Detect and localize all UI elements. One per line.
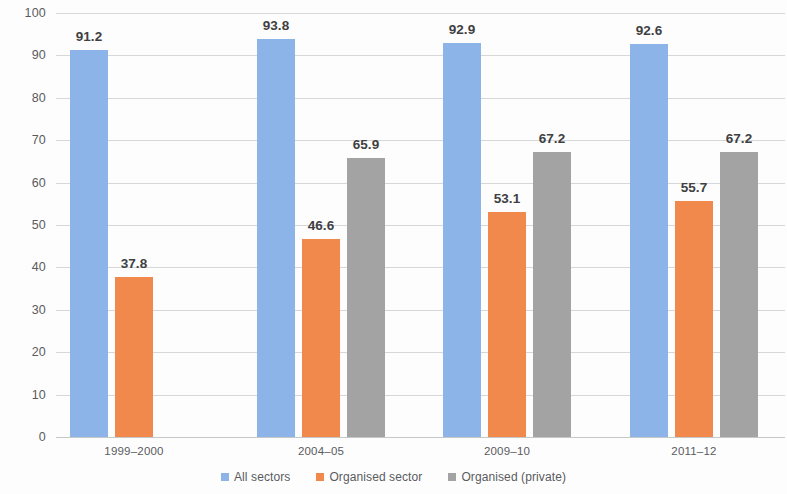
bar-value-label: 92.6	[619, 24, 679, 38]
x-category-label: 2011–12	[634, 446, 754, 458]
legend-label: Organised (private)	[461, 471, 566, 483]
bar-value-label: 93.8	[246, 19, 306, 33]
x-category-label: 1999–2000	[74, 446, 194, 458]
bar[interactable]	[302, 239, 340, 437]
y-tick-label-70: 70	[0, 134, 46, 147]
plot-area: 1009080706050403020100 91.237.893.846.66…	[0, 0, 787, 460]
bar[interactable]	[720, 152, 758, 437]
chart-legend: All sectorsOrganised sectorOrganised (pr…	[0, 471, 787, 483]
legend-swatch-icon	[448, 473, 456, 481]
bar-value-label: 46.6	[291, 219, 351, 233]
bar-chart: 1009080706050403020100 91.237.893.846.66…	[0, 0, 787, 494]
y-tick-label-90: 90	[0, 49, 46, 62]
y-tick-label-40: 40	[0, 261, 46, 274]
bar[interactable]	[533, 152, 571, 437]
bar-value-label: 37.8	[104, 257, 164, 271]
legend-label: All sectors	[234, 471, 290, 483]
bar-value-label: 91.2	[59, 30, 119, 44]
bar[interactable]	[347, 158, 385, 437]
bar[interactable]	[488, 212, 526, 437]
gridline-90	[56, 55, 785, 56]
bar-value-label: 55.7	[664, 181, 724, 195]
bar[interactable]	[443, 43, 481, 437]
bar[interactable]	[70, 50, 108, 437]
x-category-label: 2004–05	[261, 446, 381, 458]
y-tick-label-0: 0	[0, 431, 46, 444]
gridline-80	[56, 98, 785, 99]
bar-value-label: 67.2	[709, 132, 769, 146]
legend-item[interactable]: All sectors	[221, 471, 290, 483]
bar-value-label: 67.2	[522, 132, 582, 146]
legend-label: Organised sector	[329, 471, 422, 483]
bar[interactable]	[675, 201, 713, 437]
y-tick-label-100: 100	[0, 7, 46, 20]
legend-swatch-icon	[221, 473, 229, 481]
legend-item[interactable]: Organised (private)	[448, 471, 566, 483]
bar[interactable]	[630, 44, 668, 437]
gridline-0	[56, 437, 785, 438]
gridline-100	[56, 13, 785, 14]
bar-value-label: 65.9	[336, 138, 396, 152]
gridline-70	[56, 140, 785, 141]
legend-item[interactable]: Organised sector	[316, 471, 422, 483]
y-tick-label-30: 30	[0, 304, 46, 317]
y-tick-label-10: 10	[0, 388, 46, 401]
y-tick-label-20: 20	[0, 346, 46, 359]
bar-value-label: 53.1	[477, 192, 537, 206]
bar[interactable]	[257, 39, 295, 437]
y-tick-label-60: 60	[0, 176, 46, 189]
legend-swatch-icon	[316, 473, 324, 481]
bar-value-label: 92.9	[432, 23, 492, 37]
x-category-label: 2009–10	[447, 446, 567, 458]
y-tick-label-50: 50	[0, 219, 46, 232]
bar[interactable]	[115, 277, 153, 437]
y-tick-label-80: 80	[0, 92, 46, 105]
